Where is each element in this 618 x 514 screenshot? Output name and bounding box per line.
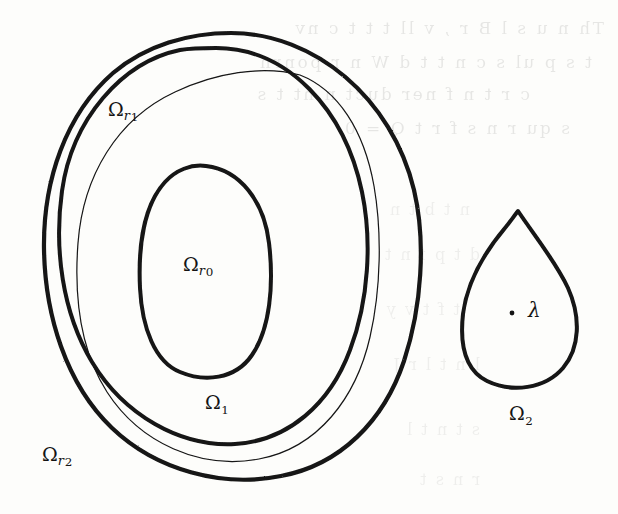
label-omega-1-base: Ω <box>205 391 221 413</box>
label-omega-r2-base: Ω <box>42 443 58 465</box>
label-omega-1-sub: 1 <box>221 401 229 416</box>
label-omega-1: Ω1 <box>205 393 229 417</box>
label-omega-r1: Ωr1 <box>108 100 139 124</box>
label-omega-r2-sub: r2 <box>58 453 73 468</box>
omega-2-boundary <box>462 211 577 388</box>
label-omega-r2: Ωr2 <box>42 445 73 469</box>
figure-container: Th n u s l B r , v ll t t t c nvt s p ul… <box>0 0 618 514</box>
diagram-canvas <box>0 0 618 514</box>
label-omega-r0-sub: r0 <box>199 263 214 278</box>
lambda-point-marker <box>510 311 515 316</box>
label-omega-r0: Ωr0 <box>183 255 214 279</box>
label-omega-2: Ω2 <box>509 404 533 428</box>
omega-r1-boundary <box>59 48 368 444</box>
label-omega-2-sub: 2 <box>525 412 533 427</box>
label-omega-r1-base: Ω <box>108 98 124 120</box>
label-omega-2-base: Ω <box>509 402 525 424</box>
label-lambda: λ <box>528 300 541 320</box>
label-omega-r1-sub: r1 <box>124 108 139 123</box>
label-omega-r0-base: Ω <box>183 253 199 275</box>
